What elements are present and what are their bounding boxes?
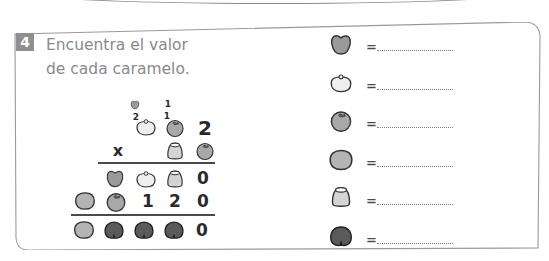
gray-candy-icon <box>327 147 355 173</box>
white-candy-icon <box>134 170 158 190</box>
digit: 2 <box>198 120 212 137</box>
equals-sign: = <box>366 156 377 169</box>
answer-blank-white[interactable] <box>377 89 453 90</box>
equals-sign: = <box>366 79 377 92</box>
instruction-line-1: Encuentra el valor <box>46 33 190 57</box>
tomato-candy-icon <box>329 109 353 133</box>
heart-candy-carry-icon <box>130 100 140 110</box>
digit: 0 <box>196 222 208 239</box>
multiply-sign: x <box>113 143 123 159</box>
gray-candy-icon <box>72 219 96 241</box>
answer-blank-heart[interactable] <box>377 50 453 51</box>
bell-candy-icon <box>165 140 185 162</box>
answer-blank-dark[interactable] <box>377 243 453 244</box>
addition-rule <box>71 214 215 216</box>
tomato-candy-icon <box>165 118 185 138</box>
answer-blank-bell[interactable] <box>377 204 453 205</box>
bell-candy-icon <box>165 168 185 190</box>
page-top-rule <box>0 0 549 4</box>
heart-candy-icon <box>329 33 353 57</box>
instruction-line-2: de cada caramelo. <box>46 57 190 81</box>
tomato-candy-icon <box>105 191 127 213</box>
digit: 0 <box>197 193 209 210</box>
answer-blank-tomato[interactable] <box>377 127 453 128</box>
white-candy-icon <box>328 73 354 95</box>
white-candy-icon <box>134 118 158 138</box>
equals-sign: = <box>366 40 377 53</box>
tomato-candy-icon <box>195 141 215 161</box>
bell-candy-icon <box>329 184 353 210</box>
heart-candy-icon <box>105 169 125 190</box>
digit: 0 <box>197 170 209 187</box>
equals-sign: = <box>366 194 377 207</box>
dark-candy-icon <box>328 224 355 248</box>
equals-sign: = <box>366 233 377 246</box>
digit: 1 <box>142 193 154 210</box>
exercise-instructions: Encuentra el valor de cada caramelo. <box>46 33 190 81</box>
equals-sign: = <box>366 117 377 130</box>
exercise-number-badge: 4 <box>16 33 34 51</box>
digit: 2 <box>169 193 181 210</box>
carry-digit: 1 <box>165 100 171 109</box>
dark-candy-icon <box>163 220 186 241</box>
gray-candy-icon <box>73 190 97 212</box>
dark-candy-icon <box>133 220 156 241</box>
dark-candy-icon <box>103 220 126 241</box>
multiplication-rule <box>98 162 215 164</box>
answer-blank-gray[interactable] <box>377 166 453 167</box>
